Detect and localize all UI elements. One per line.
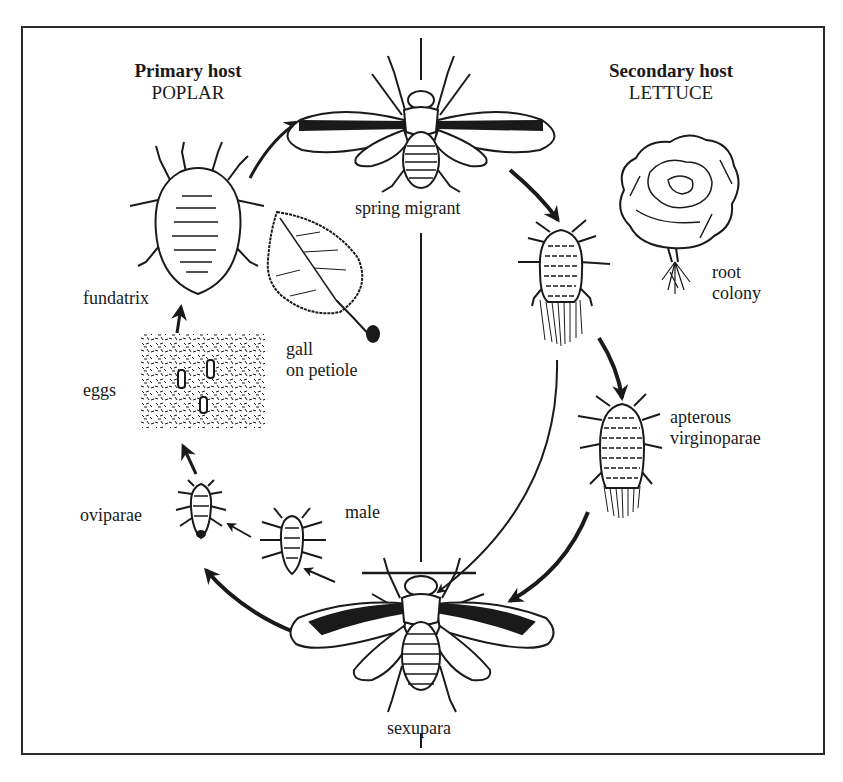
male-illustration [260, 508, 326, 574]
primary-host-plant: POPLAR [118, 82, 258, 104]
life-cycle-artwork [0, 0, 843, 782]
apterous-virginoparae-label-line2: virginoparae [670, 428, 761, 449]
gall-label-line2: on petiole [286, 360, 357, 381]
eggs-illustration [140, 334, 265, 428]
fundatrix-illustration [130, 142, 264, 294]
primary-host-heading: Primary host POPLAR [118, 60, 258, 104]
secondary-host-plant: LETTUCE [586, 82, 756, 104]
male-label: male [345, 502, 380, 523]
root-colony-aphid-illustration [518, 220, 610, 346]
primary-host-title: Primary host [118, 60, 258, 82]
gall-on-petiole-label: gall on petiole [286, 339, 357, 381]
oviparae-label: oviparae [80, 505, 142, 526]
spring-migrant-label: spring migrant [355, 198, 461, 219]
oviparae-illustration [176, 480, 226, 538]
apterous-virginoparae-label: apterous virginoparae [670, 407, 761, 449]
sexupara-illustration [290, 558, 553, 712]
poplar-leaf-gall-illustration [268, 212, 379, 342]
root-colony-label: root colony [712, 262, 761, 304]
fundatrix-label: fundatrix [83, 288, 149, 309]
gall-label-line1: gall [286, 339, 357, 360]
apterous-virginoparae-label-line1: apterous [670, 407, 761, 428]
apterous-virginoparae-illustration [578, 394, 662, 518]
root-colony-label-line1: root [712, 262, 761, 283]
sexupara-label: sexupara [387, 718, 451, 739]
root-colony-label-line2: colony [712, 283, 761, 304]
secondary-host-title: Secondary host [586, 60, 756, 82]
eggs-label: eggs [83, 380, 116, 401]
secondary-host-heading: Secondary host LETTUCE [586, 60, 756, 104]
